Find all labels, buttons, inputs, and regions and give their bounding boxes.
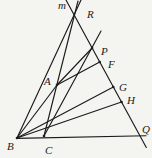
point-label-H: H <box>126 94 136 106</box>
segment-B-H <box>17 102 122 138</box>
point-dot-H <box>120 101 123 104</box>
segment-B-G <box>17 87 113 138</box>
point-label-G: G <box>119 81 127 93</box>
point-dot-P <box>91 47 94 50</box>
geometry-figure-svg: RPFAGHQBCm <box>0 0 152 158</box>
point-dot-A <box>56 84 59 87</box>
point-label-F: F <box>107 58 115 70</box>
point-dot-F <box>98 61 101 64</box>
point-label-Q: Q <box>142 123 150 135</box>
point-label-R: R <box>86 8 94 20</box>
point-label-A: A <box>43 75 51 87</box>
geometry-figure-canvas: RPFAGHQBCm <box>0 0 152 158</box>
base-line-B-C-Q <box>17 136 147 139</box>
point-label-B: B <box>7 140 14 152</box>
point-label-P: P <box>100 45 108 57</box>
point-dot-G <box>112 86 115 89</box>
line-label-m: m <box>58 0 66 11</box>
point-label-C: C <box>45 144 53 156</box>
point-dot-B <box>16 137 19 140</box>
segment-B-A <box>17 85 57 138</box>
point-dot-C <box>43 135 46 138</box>
